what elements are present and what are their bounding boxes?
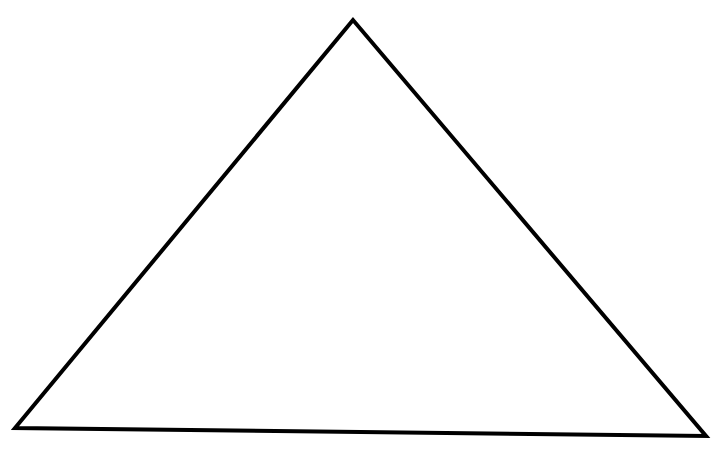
diagram-canvas xyxy=(0,0,715,460)
triangle-shape xyxy=(15,20,706,436)
triangle-figure xyxy=(0,0,715,460)
